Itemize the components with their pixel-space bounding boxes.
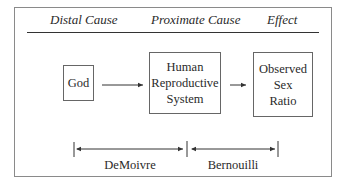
diagram-connectors xyxy=(0,0,345,188)
span-label-demoivre: DeMoivre xyxy=(104,158,155,173)
span-label-bernouilli: Bernouilli xyxy=(208,158,259,173)
